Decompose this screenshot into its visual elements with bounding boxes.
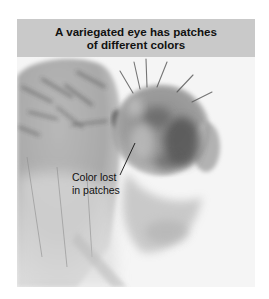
annotation-line-1: Color lost	[72, 171, 120, 184]
annotation-line-2: in patches	[72, 184, 120, 197]
title-band: A variegated eye has patches of differen…	[17, 19, 255, 57]
figure: A variegated eye has patches of differen…	[0, 0, 269, 299]
annotation-label: Color lost in patches	[72, 171, 120, 196]
fly-eye-photo	[17, 57, 255, 287]
fly-head-illustration	[17, 57, 255, 287]
title-line-2: of different colors	[87, 38, 186, 52]
title-line-1: A variegated eye has patches	[55, 25, 217, 39]
